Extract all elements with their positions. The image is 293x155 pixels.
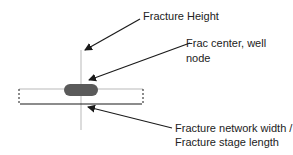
- fracture-diagram: Fracture Height Frac center, well node F…: [0, 0, 293, 155]
- arrow-to-height: [85, 19, 140, 50]
- label-network-width-line1: Fracture network width /: [175, 121, 292, 135]
- arrow-to-width: [88, 107, 172, 128]
- label-network-width-line2: Fracture stage length: [175, 135, 279, 149]
- well-node: [64, 84, 98, 96]
- label-frac-center-line2: node: [186, 51, 210, 65]
- label-frac-center-line1: Frac center, well: [186, 36, 266, 50]
- arrow-to-node: [89, 43, 190, 80]
- label-fracture-height: Fracture Height: [143, 9, 219, 23]
